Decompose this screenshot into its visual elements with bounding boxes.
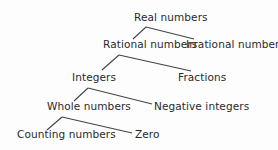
node-zero: Zero bbox=[135, 128, 160, 140]
number-classification-diagram: Real numbers Rational numbers Irrational… bbox=[0, 0, 278, 150]
node-irrational-numbers: Irrational numbers bbox=[186, 38, 278, 50]
node-real-numbers: Real numbers bbox=[134, 11, 208, 23]
node-fractions: Fractions bbox=[178, 71, 226, 83]
edge-rational-fractions bbox=[119, 55, 191, 71]
node-negative-integers: Negative integers bbox=[154, 100, 249, 112]
node-whole-numbers: Whole numbers bbox=[47, 100, 131, 112]
edge-rational-integers bbox=[102, 55, 119, 70]
node-rational-numbers: Rational numbers bbox=[103, 38, 197, 50]
node-counting-numbers: Counting numbers bbox=[17, 128, 116, 140]
node-integers: Integers bbox=[72, 71, 116, 83]
